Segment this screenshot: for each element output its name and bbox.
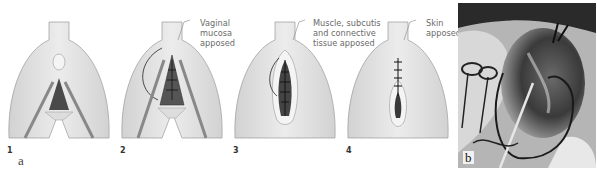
callout-vaginal-mucosa: Vaginal mucosa apposed bbox=[200, 18, 235, 48]
callout-skin: Skin apposed bbox=[426, 18, 461, 38]
step-number-2: 2 bbox=[120, 146, 126, 155]
part-label-b: b bbox=[463, 151, 474, 164]
step-number-3: 3 bbox=[233, 146, 239, 155]
part-label-a: a bbox=[18, 153, 24, 169]
illustration-step-1 bbox=[5, 0, 113, 145]
surgical-photograph: b bbox=[458, 3, 596, 168]
step-number-1: 1 bbox=[7, 146, 13, 155]
step-number-4: 4 bbox=[346, 146, 352, 155]
